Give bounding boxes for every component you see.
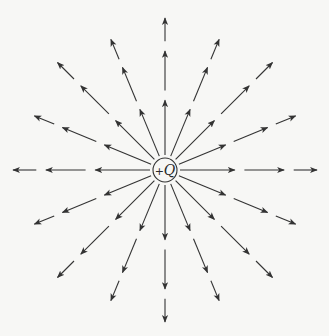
field-line-segment: [256, 261, 273, 278]
field-line-segment: [211, 39, 219, 59]
charge-symbol: Q: [164, 162, 176, 178]
field-line-segment: [62, 128, 96, 142]
field-line-segment: [123, 239, 137, 273]
field-line-segment: [276, 216, 296, 224]
field-line-segment: [176, 181, 215, 220]
field-line-segment: [194, 239, 208, 273]
field-line-segment: [234, 199, 268, 213]
field-line-segment: [140, 109, 159, 156]
field-line-segment: [81, 86, 109, 114]
field-line-segment: [116, 181, 155, 220]
charge: +Q: [153, 158, 177, 182]
field-line-segment: [123, 67, 137, 101]
field-line-segment: [140, 184, 159, 231]
field-line-segment: [58, 63, 75, 80]
field-line-segment: [221, 86, 249, 114]
field-line-segment: [234, 128, 268, 142]
field-line-segment: [171, 109, 190, 156]
field-line-segment: [104, 145, 151, 164]
field-line-segment: [211, 281, 219, 301]
field-diagram: +Q: [0, 0, 329, 336]
charge-sign: +: [155, 165, 164, 178]
field-line-segment: [179, 145, 226, 164]
field-line-segment: [176, 121, 215, 160]
field-line-segment: [58, 261, 75, 278]
field-line-segment: [221, 226, 249, 254]
field-line-segment: [34, 216, 54, 224]
field-line-segment: [104, 176, 151, 195]
field-line-segment: [276, 116, 296, 124]
field-line-segment: [34, 116, 54, 124]
field-line-segment: [179, 176, 226, 195]
field-line-segment: [111, 281, 119, 301]
field-line-segment: [111, 39, 119, 59]
field-line-segment: [116, 121, 155, 160]
field-line-segment: [171, 184, 190, 231]
field-line-segment: [194, 67, 208, 101]
field-line-segment: [62, 199, 96, 213]
field-line-segment: [81, 226, 109, 254]
charge-label: +Q: [155, 162, 176, 178]
field-line-segment: [256, 63, 273, 80]
